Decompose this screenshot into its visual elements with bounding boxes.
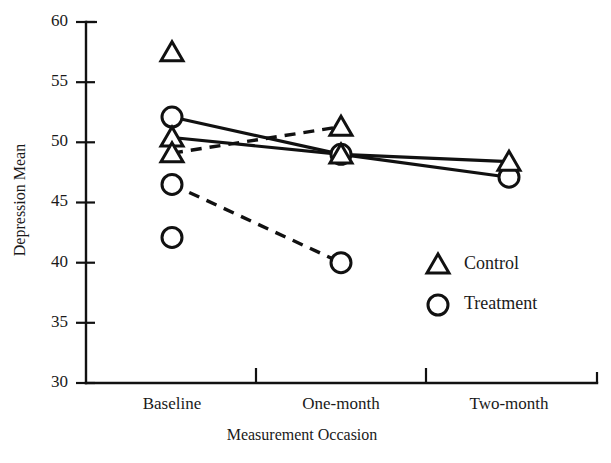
legend-circle-icon [428, 295, 448, 315]
y-tick-label-45: 45 [51, 191, 68, 210]
marker-circle-baseline [162, 107, 182, 127]
legend-label-treatment: Treatment [464, 293, 537, 313]
legend-label-control: Control [464, 253, 519, 273]
y-tick-label-60: 60 [51, 11, 68, 30]
series-line-treatment-dashed [172, 184, 341, 262]
y-tick-label-50: 50 [51, 131, 68, 150]
y-tick-label-40: 40 [51, 252, 68, 271]
x-tick-label-two-month: Two-month [469, 394, 549, 413]
y-axis-title: Depression Mean [11, 144, 29, 256]
y-tick-label-35: 35 [51, 312, 68, 331]
x-tick-label-baseline: Baseline [143, 394, 202, 413]
marker-circle-baseline [162, 174, 182, 194]
depression-mean-line-chart: 60 55 50 45 40 35 30 Baseline One-month … [0, 0, 611, 463]
legend-triangle-icon [427, 254, 449, 273]
series-lines [172, 117, 509, 263]
y-tick-label-30: 30 [51, 372, 68, 391]
marker-triangle-one-month [330, 116, 352, 135]
series-markers [161, 42, 520, 273]
x-tick-label-one-month: One-month [302, 394, 380, 413]
marker-circle-baseline-isolated [162, 227, 182, 247]
marker-triangle-baseline-isolated [161, 42, 183, 61]
x-axis-title: Measurement Occasion [227, 426, 378, 443]
chart-canvas: 60 55 50 45 40 35 30 Baseline One-month … [0, 0, 611, 463]
y-tick-label-55: 55 [51, 71, 68, 90]
chart-legend: Control Treatment [427, 253, 537, 315]
marker-circle-one-month [331, 253, 351, 273]
x-axis-ticks [256, 368, 426, 383]
